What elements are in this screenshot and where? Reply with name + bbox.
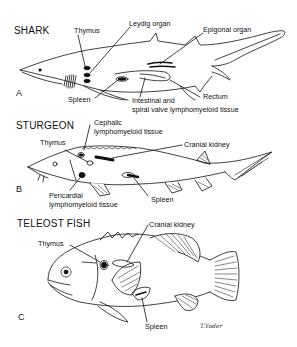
shark-illustration <box>20 27 285 100</box>
panel-letter-c: C <box>18 312 25 322</box>
artist-signature: T.Yoder <box>200 322 222 329</box>
label-sturgeon-cranial-kidney: Cranial kidney <box>184 141 230 149</box>
panel-title-teleost-fish: TELEOST FISH <box>17 218 90 229</box>
label-shark-intestinal-1: Intestinal and <box>132 97 175 105</box>
label-teleost-spleen: Spleen <box>145 323 167 331</box>
label-sturgeon-pericardial-1: Pericardial <box>49 192 83 200</box>
label-sturgeon-thymus: Thymus <box>40 139 66 147</box>
label-teleost-cranial-kidney: Cranial kidney <box>149 221 195 229</box>
label-shark-spleen: Spleen <box>68 96 90 104</box>
label-shark-rectum: Rectum <box>203 93 228 101</box>
label-sturgeon-cephalic-1: Cephalic <box>94 119 122 127</box>
diagram-artwork <box>0 0 297 347</box>
label-sturgeon-cephalic-2: lymphomyeloid tissue <box>94 128 163 136</box>
label-shark-leydig-organ: Leydig organ <box>129 20 171 28</box>
fish-lymphoid-organs-diagram: SHARK A Thymus Leydig organ Epigonal org… <box>0 0 297 347</box>
label-shark-thymus: Thymus <box>74 27 100 35</box>
label-sturgeon-spleen: Spleen <box>151 196 173 204</box>
panel-title-sturgeon: STURGEON <box>16 120 74 131</box>
panel-title-shark: SHARK <box>14 25 49 36</box>
label-shark-intestinal-2: spiral valve lymphomyeloid tissue <box>132 106 239 114</box>
panel-letter-b: B <box>16 184 22 194</box>
teleost-fish-illustration <box>48 225 239 322</box>
label-shark-epigonal-organ: Epigonal organ <box>203 26 251 34</box>
label-teleost-thymus: Thymus <box>38 240 64 248</box>
label-sturgeon-pericardial-2: lymphomyeloid tissue <box>49 201 118 209</box>
panel-letter-a: A <box>16 88 22 98</box>
